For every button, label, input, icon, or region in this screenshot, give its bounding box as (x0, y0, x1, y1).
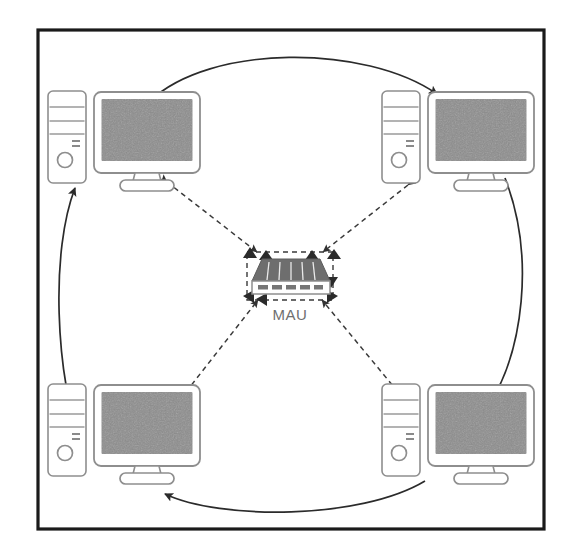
mau-label: MAU (273, 306, 308, 323)
mau-device[interactable] (252, 259, 330, 294)
diagram-canvas: MAU (0, 0, 577, 551)
network-topology-diagram: MAU (0, 0, 577, 551)
